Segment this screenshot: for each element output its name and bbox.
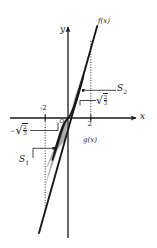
leader-line-sqrt-neg — [43, 123, 58, 131]
radical-sign-pos: √ — [96, 97, 103, 105]
curve-label-g: g(x) — [83, 137, 97, 144]
radical-sign-neg: √ — [16, 127, 23, 135]
x-tick-label-pos2: 2 — [88, 121, 92, 128]
minus-sign-neg: − — [10, 128, 15, 134]
fraction-pos: 23 — [103, 93, 109, 107]
x-tick-label-neg2: -2 — [40, 105, 47, 112]
shaded-region-s1-body — [45, 118, 68, 186]
curve-label-f: f(x) — [98, 18, 110, 25]
origin-label: O — [60, 119, 65, 125]
fraction-denominator-pos: 3 — [104, 100, 108, 107]
region-label-s2: S2 — [117, 84, 127, 95]
fraction-denominator-neg: 3 — [23, 130, 27, 137]
y-axis-label: y — [60, 25, 65, 34]
leader-line-sqrt-pos — [80, 101, 96, 106]
x-axis-label: x — [140, 112, 145, 121]
marker-dot-s1 — [52, 147, 55, 150]
region-label-s2-sub: 2 — [123, 88, 127, 95]
math-figure: y x O f(x) g(x) -2 2 S2 S1 √23 −√23 — [0, 0, 157, 248]
sqrt-expression-neg: −√23 — [10, 123, 28, 137]
region-label-s1: S1 — [19, 155, 29, 166]
sqrt-expression-pos: √23 — [96, 93, 108, 107]
annotation-sqrt-positive: √23 — [96, 93, 108, 107]
marker-dot-s2 — [82, 89, 85, 92]
region-label-s1-sub: 1 — [25, 159, 29, 166]
annotation-sqrt-negative: −√23 — [10, 123, 28, 137]
